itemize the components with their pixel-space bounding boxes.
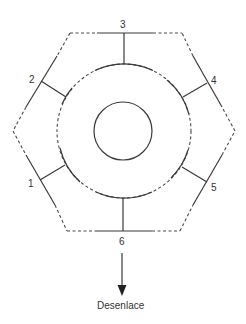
spoke-1 [40,165,65,180]
cycle-diagram: 3 2 1 4 5 6 Desenlace [0,0,246,324]
hexagon-edge-lower-right-dashed-2 [222,131,235,155]
outcome-arrow-head-icon [118,285,127,296]
spoke-2 [41,81,66,97]
outcome-label: Desenlace [97,300,145,311]
middle-ring-arc-bottom [96,192,152,198]
hexagon-edge-lower-left-dashed [13,131,26,155]
spokes [40,33,207,231]
middle-ring-arc-left-lower [60,148,80,182]
hexagon-edge-lower-left-dashed-2 [55,205,67,231]
node-label-3: 3 [120,19,126,30]
hexagon-edge-lower-right-solid [193,155,222,205]
hexagon-edge-upper-right-dashed-2 [182,33,193,56]
node-label-2: 2 [29,74,35,85]
hexagon-edge-upper-left-dashed [57,33,70,56]
node-label-6: 6 [119,236,125,247]
node-label-4: 4 [211,75,217,86]
middle-ring [57,64,191,198]
middle-ring-arc-right-upper [167,80,189,114]
hexagon-edge-upper-right-solid [193,56,222,107]
hexagon-edge-upper-right-dashed [222,107,235,131]
spoke-5 [182,167,207,182]
hexagon-edge-upper-left-dashed-2 [13,107,26,131]
node-label-5: 5 [211,182,217,193]
middle-ring-arc-right-lower [171,150,188,178]
node-label-1: 1 [28,178,34,189]
inner-circle [94,102,152,160]
spoke-4 [183,83,207,97]
middle-ring-arc-top [95,64,153,71]
hexagon-edge-lower-right-dashed [180,205,193,231]
